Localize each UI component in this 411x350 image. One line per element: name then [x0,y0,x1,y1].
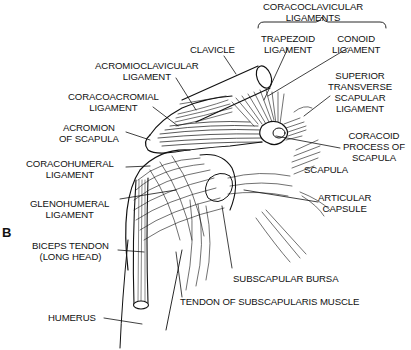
label-humerus: HUMERUS [48,312,96,323]
label-superior-transverse-scapular-ligament: SUPERIOR TRANSVERSE SCAPULAR LIGAMENT [328,70,392,114]
panel-letter: B [2,225,11,240]
label-biceps-tendon-long-head: BICEPS TENDON (LONG HEAD) [32,240,109,262]
label-conoid-ligament: CONOID LIGAMENT [332,33,380,55]
label-coracoacromial-ligament: CORACOACROMIAL LIGAMENT [68,91,159,113]
label-trapezoid-ligament: TRAPEZOID LIGAMENT [261,33,315,55]
shoulder-ligament-diagram: B CORACOCLAVICULAR LIGAMENTS TRAPEZOID L… [0,0,411,350]
label-acromioclavicular-ligament: ACROMIOCLAVICULAR LIGAMENT [95,60,199,82]
label-glenohumeral-ligament: GLENOHUMERAL LIGAMENT [30,198,109,220]
label-tendon-of-subscapularis-muscle: TENDON OF SUBSCAPULARIS MUSCLE [180,296,359,307]
label-scapula: SCAPULA [304,164,348,175]
label-coracohumeral-ligament: CORACOHUMERAL LIGAMENT [26,158,114,180]
label-coracoclavicular-ligaments: CORACOCLAVICULAR LIGAMENTS [263,1,363,23]
label-subscapular-bursa: SUBSCAPULAR BURSA [233,273,338,284]
label-coracoid-process-of-scapula: CORACOID PROCESS OF SCAPULA [343,130,405,163]
label-acromion-of-scapula: ACROMION OF SCAPULA [59,122,119,144]
label-clavicle: CLAVICLE [190,44,235,55]
label-articular-capsule: ARTICULAR CAPSULE [318,192,371,214]
